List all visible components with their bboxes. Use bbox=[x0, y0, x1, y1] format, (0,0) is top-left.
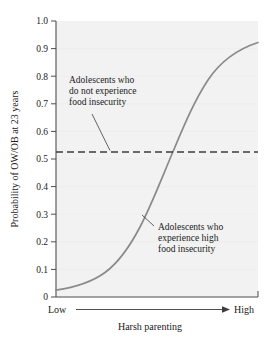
annotation-upper-line-1: Adolescents who bbox=[69, 75, 134, 85]
y-tick-label-0-2: 0.2 bbox=[36, 237, 48, 247]
annotation-lower-line-2: experience high bbox=[158, 233, 219, 243]
probability-line-chart: 1.0 0.9 0.8 0.7 0.6 0.5 0.4 0.3 0.2 0.1 … bbox=[0, 0, 270, 337]
annotation-upper-line-2: do not experience bbox=[69, 86, 137, 96]
x-axis-title: Harsh parenting bbox=[118, 321, 182, 332]
annotation-upper-line-3: food insecurity bbox=[69, 97, 127, 107]
y-axis-title: Probability of OW/OB at 23 years bbox=[9, 90, 20, 227]
x-axis-high-label: High bbox=[234, 304, 254, 315]
x-axis-low-label: Low bbox=[48, 304, 67, 315]
y-axis-ticks bbox=[51, 21, 56, 297]
y-tick-label-0-5: 0.5 bbox=[36, 154, 48, 164]
y-tick-label-0-4: 0.4 bbox=[36, 182, 48, 192]
chart-figure: 1.0 0.9 0.8 0.7 0.6 0.5 0.4 0.3 0.2 0.1 … bbox=[0, 0, 270, 337]
y-tick-label-0-1: 0.1 bbox=[36, 265, 48, 275]
annotation-high-food-insecurity: Adolescents who experience high food ins… bbox=[158, 222, 223, 254]
y-tick-label-0: 0 bbox=[43, 292, 48, 302]
y-tick-label-0-9: 0.9 bbox=[36, 44, 48, 54]
y-tick-label-0-3: 0.3 bbox=[36, 210, 48, 220]
y-tick-label-0-7: 0.7 bbox=[36, 99, 48, 109]
annotation-lower-line-1: Adolescents who bbox=[158, 222, 223, 232]
y-tick-label-0-8: 0.8 bbox=[36, 72, 48, 82]
y-tick-label-1-0: 1.0 bbox=[36, 16, 48, 26]
annotation-lower-line-3: food insecurity bbox=[158, 244, 216, 254]
y-tick-label-0-6: 0.6 bbox=[36, 127, 48, 137]
x-axis-direction-arrow-head bbox=[222, 306, 230, 312]
